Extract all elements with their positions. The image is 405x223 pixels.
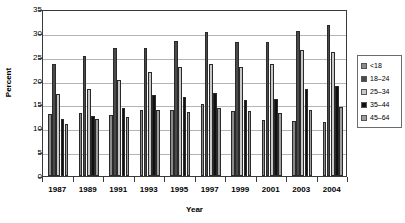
- x-tick-mark: [347, 177, 348, 182]
- bar: [144, 48, 148, 176]
- bar-group: [48, 11, 68, 176]
- legend-item[interactable]: 45–64: [361, 111, 399, 124]
- bar: [270, 64, 274, 176]
- bar-group: [201, 11, 221, 176]
- bar: [327, 25, 331, 176]
- x-tick-mark: [103, 177, 104, 182]
- x-tick-mark: [256, 177, 257, 182]
- legend-label: <18: [370, 62, 382, 70]
- bar-group: [262, 11, 282, 176]
- bar: [323, 122, 327, 176]
- bar-group: [231, 11, 251, 176]
- bar: [117, 80, 121, 176]
- y-tick-label: 15: [2, 101, 42, 109]
- legend-label: 18–24: [370, 75, 389, 83]
- bar: [183, 97, 187, 176]
- bar: [331, 52, 335, 176]
- bar-group: [79, 11, 99, 176]
- x-tick-mark: [225, 177, 226, 182]
- bar: [91, 116, 95, 176]
- legend: <1818–2425–3435–4445–64: [357, 55, 402, 128]
- bars-layer: [43, 11, 346, 176]
- bar: [300, 50, 304, 176]
- legend-swatch-icon: [361, 115, 367, 121]
- x-tick-mark: [73, 177, 74, 182]
- x-tick-mark: [286, 177, 287, 182]
- plot-area: [42, 10, 347, 177]
- bar: [122, 108, 126, 176]
- bar: [305, 89, 309, 176]
- bar: [113, 48, 117, 176]
- bar: [244, 100, 248, 176]
- bar: [205, 32, 209, 176]
- bar: [335, 86, 339, 176]
- bar: [178, 67, 182, 176]
- bar: [278, 113, 282, 176]
- bar: [266, 42, 270, 176]
- x-axis-title: Year: [42, 205, 347, 214]
- bar: [83, 56, 87, 176]
- y-tick-label: 10: [2, 125, 42, 133]
- bar-group: [292, 11, 312, 176]
- bar: [87, 89, 91, 176]
- legend-item[interactable]: 18–24: [361, 72, 399, 85]
- bar: [48, 114, 52, 176]
- bar: [148, 72, 152, 176]
- legend-label: 25–34: [370, 88, 389, 96]
- bar: [217, 108, 221, 176]
- bar-group: [140, 11, 160, 176]
- bar: [79, 113, 83, 176]
- bar: [231, 111, 235, 176]
- y-tick-label: 35: [2, 6, 42, 14]
- legend-item[interactable]: 35–44: [361, 98, 399, 111]
- bar: [52, 64, 56, 176]
- bar: [201, 104, 205, 176]
- bar-group: [170, 11, 190, 176]
- x-tick-mark: [134, 177, 135, 182]
- bar: [126, 117, 130, 176]
- bar: [213, 93, 217, 176]
- y-tick-label: 30: [2, 30, 42, 38]
- bar: [56, 94, 60, 176]
- bar: [339, 107, 343, 176]
- x-tick-mark: [42, 177, 43, 182]
- bar: [262, 120, 266, 176]
- bar-group: [323, 11, 343, 176]
- bar: [309, 110, 313, 176]
- bar: [95, 119, 99, 176]
- bar: [61, 119, 65, 176]
- legend-label: 35–44: [370, 101, 389, 109]
- bar: [170, 110, 174, 176]
- legend-swatch-icon: [361, 76, 367, 82]
- bar: [187, 112, 191, 176]
- legend-label: 45–64: [370, 114, 389, 122]
- legend-swatch-icon: [361, 102, 367, 108]
- y-tick-label: 20: [2, 78, 42, 86]
- bar: [156, 110, 160, 176]
- x-tick-mark: [317, 177, 318, 182]
- bar: [109, 115, 113, 176]
- x-tick-mark: [164, 177, 165, 182]
- bar: [296, 31, 300, 176]
- bar: [239, 67, 243, 176]
- legend-swatch-icon: [361, 89, 367, 95]
- y-tick-label: 5: [2, 149, 42, 157]
- bar: [174, 41, 178, 176]
- bar-chart: Percent 05101520253035 19871989199119931…: [0, 0, 405, 223]
- y-tick-label: 25: [2, 54, 42, 62]
- legend-swatch-icon: [361, 63, 367, 69]
- bar: [209, 64, 213, 176]
- y-tick-label: 0: [2, 173, 42, 181]
- legend-item[interactable]: <18: [361, 59, 399, 72]
- x-tick-label: 2004: [312, 185, 352, 194]
- bar: [274, 99, 278, 176]
- bar-group: [109, 11, 129, 176]
- bar: [235, 42, 239, 176]
- legend-item[interactable]: 25–34: [361, 85, 399, 98]
- bar: [248, 111, 252, 176]
- bar: [152, 95, 156, 176]
- x-tick-mark: [195, 177, 196, 182]
- bar: [140, 110, 144, 176]
- bar: [292, 121, 296, 176]
- bar: [65, 124, 69, 176]
